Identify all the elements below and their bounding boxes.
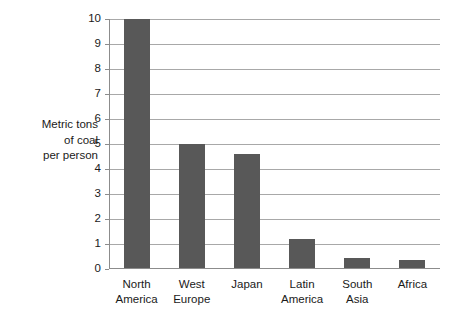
bar-latin-america [289,239,315,269]
gridline-1 [109,244,440,245]
y-tick-label-2: 2 [73,213,101,225]
bar-north-america [124,19,150,269]
y-tick-label-0: 0 [73,263,101,275]
gridline-6 [109,119,440,120]
gridline-9 [109,44,440,45]
gridline-3 [109,194,440,195]
y-tick-label-7: 7 [73,88,101,100]
x-category-label-line-1: Africa [367,277,454,292]
x-category-label-africa: Africa [367,277,454,292]
y-tick-label-8: 8 [73,63,101,75]
y-tick-label-9: 9 [73,38,101,50]
y-tick-label-4: 4 [73,163,101,175]
y-axis-title-line-3: per person [8,148,98,164]
x-category-label-line-2: Asia [312,292,402,307]
y-axis-line [109,19,110,269]
gridline-5 [109,144,440,145]
gridline-8 [109,69,440,70]
bar-japan [234,154,260,269]
tick-mark-0 [105,269,109,270]
y-tick-label-10: 10 [73,13,101,25]
x-category-label-line-2: Europe [147,292,237,307]
y-tick-label-5: 5 [73,138,101,150]
gridline-4 [109,169,440,170]
gridline-7 [109,94,440,95]
y-tick-label-6: 6 [73,113,101,125]
bar-west-europe [179,144,205,269]
plot-area [109,19,440,269]
gridline-10 [109,19,440,20]
y-tick-label-3: 3 [73,188,101,200]
y-tick-label-1: 1 [73,238,101,250]
gridline-2 [109,219,440,220]
x-axis-line [109,268,440,269]
bar-chart-figure: Metric tons of coal per person 109876543… [0,0,454,321]
